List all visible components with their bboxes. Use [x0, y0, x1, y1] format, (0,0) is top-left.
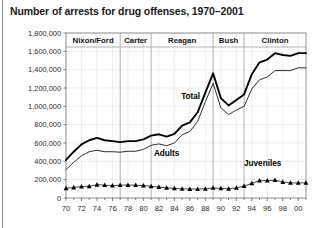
x-axis-tick-label: 82: [155, 204, 163, 213]
series-annotation-juveniles: Juveniles: [244, 159, 282, 168]
page-title: Number of arrests for drug offenses, 197…: [10, 5, 244, 17]
x-axis-tick-label: 92: [232, 204, 240, 213]
chart-figure: Number of arrests for drug offenses, 197…: [0, 0, 316, 228]
annotation-layer: TotalAdultsJuveniles: [154, 92, 282, 168]
arrests-line-chart: Nixon/FordCarterReaganBushClinton 0200,0…: [0, 0, 316, 228]
era-label-nixon-ford: Nixon/Ford: [73, 36, 114, 45]
series-line-adults: [66, 68, 306, 170]
x-axis-tick-label: 00: [294, 204, 302, 213]
x-axis-tick-label: 98: [279, 204, 287, 213]
x-axis-tick-label: 72: [77, 204, 85, 213]
series-line-juveniles: [66, 180, 306, 189]
x-axis-tick-label: 76: [108, 204, 116, 213]
x-axis-tick-label: 84: [170, 204, 178, 213]
y-axis-tick-label: 1,200,000: [28, 84, 61, 93]
y-axis-tick-label: 0: [57, 194, 61, 203]
era-label-bush: Bush: [219, 36, 239, 45]
y-axis-tick-label: 800,000: [34, 120, 61, 129]
y-axis-tick-label: 1,400,000: [28, 65, 61, 74]
x-axis-tick-label: 78: [124, 204, 132, 213]
y-axis-tick-label: 1,800,000: [28, 29, 61, 38]
series-annotation-total: Total: [181, 92, 200, 101]
x-axis-tick-label: 96: [263, 204, 271, 213]
series-layer: [64, 53, 309, 191]
era-label-carter: Carter: [124, 36, 147, 45]
left-border-rule: [2, 0, 3, 228]
y-axis-tick-label: 600,000: [34, 139, 61, 148]
x-axis-tick-label: 90: [217, 204, 225, 213]
x-axis-tick-label: 94: [248, 204, 256, 213]
series-marker-juveniles: [95, 182, 100, 187]
x-axis-tick-label: 88: [201, 204, 209, 213]
era-label-reagan: Reagan: [168, 36, 196, 45]
y-axis-tick-label: 200,000: [34, 175, 61, 184]
axis-layer: 0200,000400,000600,000800,0001,000,0001,…: [28, 29, 306, 213]
x-axis-tick-label: 80: [139, 204, 147, 213]
x-axis-tick-label: 86: [186, 204, 194, 213]
x-axis-tick-label: 70: [62, 204, 70, 213]
series-marker-juveniles: [211, 185, 216, 190]
y-axis-tick-label: 400,000: [34, 157, 61, 166]
y-axis-tick-label: 1,000,000: [28, 102, 61, 111]
x-axis-tick-label: 74: [93, 204, 101, 213]
series-annotation-adults: Adults: [154, 149, 180, 158]
era-label-clinton: Clinton: [262, 36, 289, 45]
y-axis-tick-label: 1,600,000: [28, 47, 61, 56]
